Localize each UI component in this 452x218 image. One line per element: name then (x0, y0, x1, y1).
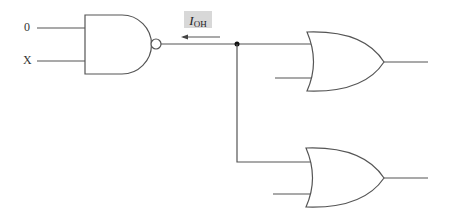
input-label-0: 0 (24, 20, 30, 35)
input-label-x: X (23, 53, 32, 68)
top-or-gate (307, 32, 384, 91)
current-subscript: OH (194, 19, 207, 29)
bottom-or-gate (306, 148, 384, 207)
circuit-svg (0, 0, 452, 218)
current-arrow-head (181, 35, 188, 40)
nand-inversion-bubble (151, 39, 161, 49)
current-label: IOH (184, 11, 212, 28)
nand-gate (85, 15, 152, 74)
branch-wire (237, 44, 312, 162)
circuit-diagram: 0 X IOH (0, 0, 452, 218)
